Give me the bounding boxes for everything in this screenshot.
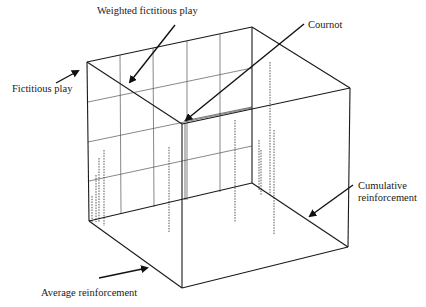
label-cumulative-reinforcement-line1: Cumulative	[358, 180, 426, 192]
edge-top-left-diagonal	[87, 62, 182, 124]
arrow-cournot	[186, 24, 304, 120]
edge-top-right-diagonal	[252, 27, 350, 88]
label-fictitious-play: Fictitious play	[12, 83, 72, 95]
edge-bottom-left-diagonal	[89, 221, 182, 288]
edge-front-top	[182, 88, 350, 124]
grid-vertical-1	[120, 55, 121, 214]
arrow-fictitious-play	[56, 71, 78, 83]
edge-front-bottom	[182, 247, 348, 288]
edge-back-bottom	[89, 183, 252, 221]
arrow-weighted-fictitious-play	[130, 25, 175, 82]
label-average-reinforcement: Average reinforcement	[41, 287, 137, 299]
grid-horizontal-2	[88, 108, 252, 142]
edge-front-right	[348, 88, 350, 247]
dashed-data-lines	[92, 62, 274, 235]
label-cournot: Cournot	[308, 19, 342, 31]
learning-models-cube-diagram	[0, 0, 426, 307]
edge-bottom-right-diagonal	[252, 183, 348, 247]
grid-horizontal-3	[89, 146, 252, 181]
label-weighted-fictitious-play: Weighted fictitious play	[97, 5, 198, 17]
arrow-cumulative-reinforcement	[310, 185, 353, 216]
arrow-average-reinforcement	[99, 268, 147, 278]
cube-edges	[87, 27, 350, 288]
grid-vertical-2	[153, 48, 154, 207]
label-cumulative-reinforcement: Cumulative reinforcement	[358, 180, 426, 204]
back-wall-grid	[88, 34, 252, 214]
label-cumulative-reinforcement-line2: reinforcement	[358, 192, 426, 204]
grid-horizontal-1	[88, 68, 252, 102]
